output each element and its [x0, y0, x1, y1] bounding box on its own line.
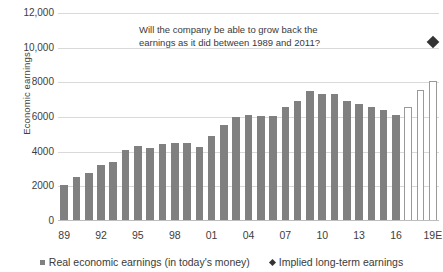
bar — [196, 147, 204, 221]
bar — [269, 116, 277, 221]
bar — [134, 146, 142, 221]
y-axis-tick-label: 8000 — [8, 77, 54, 87]
chart-legend: Real economic earnings (in today's money… — [0, 256, 443, 268]
bar — [73, 177, 81, 221]
bar — [368, 107, 376, 221]
legend-item-real-economic-earnings: Real economic earnings (in today's money… — [40, 256, 250, 268]
bar — [294, 101, 302, 221]
x-axis-tick-label: 89 — [58, 229, 70, 241]
y-axis-tick-label: 12,000 — [8, 8, 54, 18]
bar — [318, 94, 326, 221]
bar-estimate — [429, 81, 437, 221]
x-axis-tick-label: 92 — [95, 229, 107, 241]
square-marker-icon — [40, 260, 45, 265]
bar — [208, 136, 216, 221]
x-axis-tick-label: 13 — [353, 229, 365, 241]
x-axis-tick-label: 98 — [169, 229, 181, 241]
bar — [159, 144, 167, 221]
bar-estimate — [417, 90, 425, 221]
bar — [232, 117, 240, 221]
bar — [171, 143, 179, 221]
y-axis-tick-label: 10,000 — [8, 43, 54, 53]
legend-label: Implied long-term earnings — [279, 256, 403, 268]
y-axis-tick-label: 2000 — [8, 181, 54, 191]
legend-label: Real economic earnings (in today's money… — [49, 256, 250, 268]
bar — [380, 110, 388, 221]
x-axis-line — [58, 220, 439, 221]
x-axis-tick-labels: 8992959801040710131619E — [58, 229, 439, 245]
bar — [183, 143, 191, 221]
bar — [331, 94, 339, 221]
bar — [343, 101, 351, 221]
y-axis-tick-label: 0 — [8, 216, 54, 226]
bar — [245, 115, 253, 221]
annotation-line-1: Will the company be able to grow back th… — [139, 24, 344, 37]
y-axis-tick-label: 6000 — [8, 112, 54, 122]
bar — [97, 165, 105, 221]
legend-item-implied-long-term-earnings: Implied long-term earnings — [270, 256, 403, 268]
bar — [146, 148, 154, 221]
x-axis-tick-label: 10 — [316, 229, 328, 241]
bar — [392, 115, 400, 221]
growth-question-annotation: Will the company be able to grow back th… — [139, 24, 344, 49]
bar — [355, 104, 363, 221]
x-axis-tick-label: 07 — [280, 229, 292, 241]
bar — [85, 173, 93, 221]
x-axis-tick-label: 95 — [132, 229, 144, 241]
y-axis-tick-labels: 0200040006000800010,00012,000 — [0, 0, 54, 272]
bar — [282, 107, 290, 221]
x-axis-tick-label: 01 — [206, 229, 218, 241]
bar — [109, 162, 117, 221]
x-axis-tick-label: 04 — [243, 229, 255, 241]
economic-earnings-bar-chart: Economic earnings 0200040006000800010,00… — [0, 0, 443, 272]
bar-estimate — [404, 107, 412, 221]
bar — [257, 116, 265, 221]
x-axis-tick-label: 19E — [424, 229, 443, 241]
bar — [122, 150, 130, 221]
y-axis-tick-label: 4000 — [8, 147, 54, 157]
bar — [60, 185, 68, 221]
bar — [220, 125, 228, 221]
bar — [306, 91, 314, 221]
annotation-line-2: earnings as it did between 1989 and 2011… — [139, 37, 344, 50]
x-axis-tick-label: 16 — [390, 229, 402, 241]
diamond-marker-icon — [269, 258, 276, 265]
